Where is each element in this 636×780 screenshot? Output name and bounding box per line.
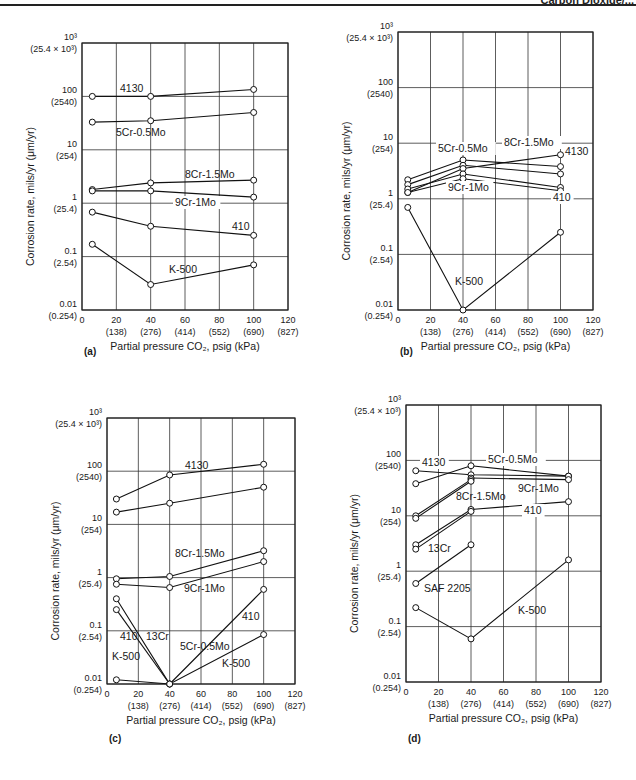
y-tick-sublabel: (25.4 × 10³) bbox=[354, 406, 401, 416]
x-tick-sublabel: (827) bbox=[277, 327, 298, 337]
x-tick-label: 60 bbox=[180, 315, 190, 325]
data-point-marker bbox=[89, 119, 95, 125]
y-tick-label: 10³ bbox=[388, 394, 401, 404]
data-point-marker bbox=[468, 478, 474, 484]
data-point-marker bbox=[148, 118, 154, 124]
series-label: 8Cr-1.5Mo bbox=[504, 136, 554, 148]
series-label: 410 bbox=[242, 610, 260, 622]
x-tick-label: 100 bbox=[256, 689, 271, 699]
data-point-marker bbox=[558, 171, 564, 177]
y-axis-title: Corrosion rate, mils/yr (μm/yr) bbox=[49, 501, 61, 640]
y-tick-label: 0.01 bbox=[59, 299, 77, 309]
series-label: 4130 bbox=[185, 459, 209, 471]
x-axis-title: Partial pressure CO₂, psig (kPa) bbox=[110, 340, 259, 352]
data-point-marker bbox=[167, 472, 173, 478]
y-tick-label: 0.1 bbox=[64, 246, 77, 256]
series-13cr bbox=[113, 607, 172, 687]
y-tick-sublabel: (254) bbox=[372, 144, 393, 154]
data-point-marker bbox=[251, 262, 257, 268]
x-tick-label: 40 bbox=[466, 687, 476, 697]
y-tick-label: 0.01 bbox=[383, 671, 401, 681]
y-tick-label: 10 bbox=[383, 132, 393, 142]
x-tick-label: 120 bbox=[593, 687, 608, 697]
y-tick-label: 1 bbox=[396, 560, 401, 570]
data-point-marker bbox=[148, 180, 154, 186]
y-tick-sublabel: (2540) bbox=[76, 472, 102, 482]
series-label: 9Cr-1Mo bbox=[184, 582, 225, 594]
series-label: K-500 bbox=[455, 275, 483, 287]
data-point-marker bbox=[251, 109, 257, 115]
y-tick-sublabel: (25.4) bbox=[369, 200, 393, 210]
figure-canvas: 10³(25.4 × 10³)100(2540)10(254)1(25.4)0.… bbox=[0, 0, 636, 780]
x-tick-sublabel: (138) bbox=[128, 701, 149, 711]
x-tick-label: 100 bbox=[553, 315, 568, 325]
x-tick-label: 100 bbox=[561, 687, 576, 697]
y-axis-title: Corrosion rate, mils/yr (μm/yr) bbox=[24, 127, 36, 266]
series-label: 13Cr bbox=[146, 630, 169, 642]
x-axis-title: Partial pressure CO₂, psig (kPa) bbox=[126, 714, 275, 726]
y-tick-sublabel: (2540) bbox=[375, 461, 401, 471]
x-tick-sublabel: (827) bbox=[284, 701, 305, 711]
y-tick-sublabel: (2.54) bbox=[369, 255, 393, 265]
y-tick-sublabel: (2.54) bbox=[53, 258, 77, 268]
x-tick-label: 20 bbox=[433, 687, 443, 697]
data-point-marker bbox=[148, 93, 154, 99]
data-point-marker bbox=[558, 164, 564, 170]
data-point-marker bbox=[558, 152, 564, 158]
series-label: 4130 bbox=[565, 145, 589, 157]
series-label: 5Cr-0.5Mo bbox=[116, 126, 166, 138]
panel-label: (b) bbox=[400, 346, 413, 357]
data-point-marker bbox=[558, 229, 564, 235]
data-point-marker bbox=[460, 307, 466, 313]
series-label: K-500 bbox=[112, 650, 140, 662]
series-label: K-500 bbox=[222, 657, 250, 669]
x-tick-label: 80 bbox=[531, 687, 541, 697]
data-point-marker bbox=[251, 194, 257, 200]
y-tick-sublabel: (25.4 × 10³) bbox=[30, 44, 77, 54]
x-tick-sublabel: (138) bbox=[106, 327, 127, 337]
data-point-marker bbox=[113, 509, 119, 515]
x-tick-sublabel: (690) bbox=[253, 701, 274, 711]
x-tick-sublabel: (690) bbox=[550, 327, 571, 337]
series-label: 9Cr-1Mo bbox=[175, 196, 216, 208]
x-tick-sublabel: (827) bbox=[582, 327, 603, 337]
data-point-marker bbox=[167, 681, 173, 687]
y-tick-sublabel: (2540) bbox=[51, 97, 77, 107]
y-tick-sublabel: (0.254) bbox=[364, 311, 393, 321]
data-point-marker bbox=[167, 585, 173, 591]
x-tick-label: 0 bbox=[104, 689, 109, 699]
y-tick-sublabel: (2.54) bbox=[78, 632, 102, 642]
panel-label: (c) bbox=[109, 733, 121, 744]
x-tick-sublabel: (138) bbox=[428, 699, 449, 709]
x-tick-label: 120 bbox=[287, 689, 302, 699]
data-point-marker bbox=[113, 607, 119, 613]
chart-panel-d: 10³(25.4 × 10³)100(2540)10(254)1(25.4)0.… bbox=[348, 394, 612, 744]
series-5cr-0-5mo bbox=[405, 157, 564, 183]
x-tick-label: 60 bbox=[196, 689, 206, 699]
data-point-marker bbox=[566, 557, 572, 563]
data-point-marker bbox=[251, 86, 257, 92]
series-k-500 bbox=[405, 204, 564, 313]
y-tick-label: 10 bbox=[391, 505, 401, 515]
y-tick-label: 100 bbox=[62, 85, 77, 95]
data-point-marker bbox=[468, 542, 474, 548]
x-axis-title: Partial pressure CO₂, psig (kPa) bbox=[421, 340, 570, 352]
chart-panel-b: 10³(25.4 × 10³)100(2540)10(254)1(25.4)0.… bbox=[340, 21, 604, 357]
series-9cr-1mo bbox=[89, 188, 256, 200]
x-tick-label: 20 bbox=[111, 315, 121, 325]
x-tick-sublabel: (690) bbox=[558, 699, 579, 709]
series-410 bbox=[413, 499, 572, 548]
data-point-marker bbox=[261, 548, 267, 554]
y-tick-sublabel: (25.4 × 10³) bbox=[346, 33, 393, 43]
series-label: K-500 bbox=[169, 263, 197, 275]
x-tick-label: 20 bbox=[425, 315, 435, 325]
y-tick-label: 10 bbox=[92, 513, 102, 523]
x-tick-sublabel: (690) bbox=[243, 327, 264, 337]
series-label: 13Cr bbox=[428, 542, 451, 554]
data-point-marker bbox=[148, 282, 154, 288]
x-tick-label: 80 bbox=[227, 689, 237, 699]
y-tick-sublabel: (254) bbox=[56, 151, 77, 161]
data-point-marker bbox=[251, 177, 257, 183]
y-tick-label: 100 bbox=[378, 77, 393, 87]
series-label: SAF 2205 bbox=[424, 582, 471, 594]
